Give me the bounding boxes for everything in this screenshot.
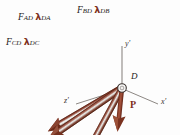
force-AD-magnitude-sub: AD [24,14,33,21]
force-AD-label: FAD λDA [18,12,50,23]
axis-label-x-prime: x' [161,98,166,106]
force-BD-unit-vector-sub: DB [100,7,109,14]
load-P-label: P [130,99,136,110]
axis-x-prime-line [123,89,158,104]
force-BD-label: FBD λDB [77,5,109,16]
force-CD-unit-vector-sub: DC [30,39,40,46]
force-CD-magnitude-sub: CD [12,39,22,46]
force-CD-label: FCD λDC [6,37,39,48]
force-BD-magnitude-sub: BD [83,7,92,14]
joint-D-label: D [131,72,138,81]
joint-D-marker [118,84,127,93]
force-AD-unit-vector-sub: DA [41,14,50,21]
figure-canvas: FAD λDA FBD λDB FCD λDC y' x' z' D P [0,0,180,135]
axis-label-z-prime: z' [64,97,69,105]
axis-label-y-prime: y' [125,40,130,48]
